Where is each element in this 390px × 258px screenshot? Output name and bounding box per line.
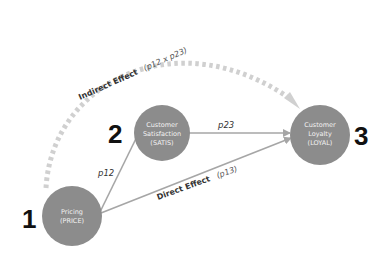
svg-text:Pricing: Pricing — [61, 208, 83, 216]
svg-text:(SATIS): (SATIS) — [150, 139, 173, 147]
arc-arrowhead-icon — [284, 92, 300, 109]
svg-text:Satisfaction: Satisfaction — [143, 130, 181, 138]
node-loyal: Customer Loyalty (LOYAL) — [290, 105, 350, 165]
node-number-1: 1 — [22, 204, 36, 234]
indirect-effect-label: Indirect Effect (p12 x p23) — [74, 39, 189, 102]
direct-effect-label: Direct Effect (p13) — [153, 158, 239, 203]
node-number-2: 2 — [108, 119, 122, 149]
node-satis: Customer Satisfaction (SATIS) — [134, 105, 190, 161]
node-price: Pricing (PRICE) — [42, 186, 102, 246]
edge-label-p23: p23 — [217, 120, 234, 130]
edge-price-loyal — [101, 138, 291, 213]
mediation-diagram: Indirect Effect (p12 x p23) p12 p23 Dire… — [0, 0, 390, 258]
svg-text:Customer: Customer — [304, 121, 336, 129]
edge-label-p12: p12 — [97, 168, 114, 178]
svg-text:Loyalty: Loyalty — [308, 130, 332, 138]
svg-text:(LOYAL): (LOYAL) — [308, 139, 333, 147]
svg-text:Customer: Customer — [146, 121, 178, 129]
svg-text:(PRICE): (PRICE) — [60, 217, 84, 225]
node-number-3: 3 — [354, 121, 368, 151]
